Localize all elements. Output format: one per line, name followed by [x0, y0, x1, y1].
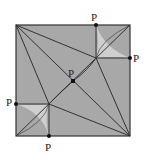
label-p-bottom: P	[45, 142, 51, 153]
label-p-top: P	[91, 12, 97, 23]
diagram-canvas	[0, 0, 150, 160]
label-p-center: P	[68, 68, 74, 79]
label-p-left: P	[6, 97, 12, 108]
label-p-right: P	[133, 53, 139, 64]
